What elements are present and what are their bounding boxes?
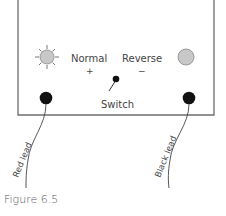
figure-caption: Figure 6.5 [4,193,58,206]
circuit-tester-diagram: Normal + Reverse − Switch Red lead Black… [0,0,226,216]
red-terminal-icon[interactable] [40,92,53,105]
normal-sign: + [86,66,94,76]
unlit-bulb-icon [178,49,194,65]
reverse-sign: − [138,66,146,76]
switch-label: Switch [101,99,134,110]
lit-bulb-icon [35,45,59,69]
black-lead-label: Black lead [153,134,179,178]
black-terminal-icon[interactable] [183,92,196,105]
normal-label: Normal [71,53,107,64]
reverse-label: Reverse [122,53,162,64]
toggle-switch-icon[interactable] [109,76,119,91]
red-lead-label: Red lead [11,141,34,179]
